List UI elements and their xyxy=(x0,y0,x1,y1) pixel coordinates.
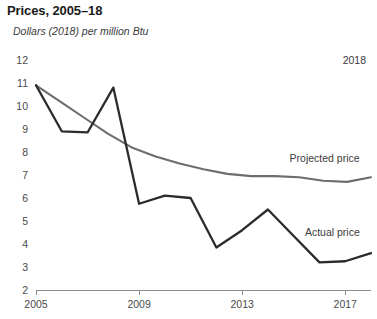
x-axis-tick-label: 2017 xyxy=(334,298,358,310)
x-axis-group: 2005200920132017 xyxy=(24,290,371,310)
y-axis-tick-label: 10 xyxy=(16,100,28,112)
y-axis-tick-label: 4 xyxy=(22,238,28,250)
series-line-projected-price xyxy=(36,85,371,182)
corner-year-label: 2018 xyxy=(343,54,367,66)
y-axis-tick-label: 6 xyxy=(22,192,28,204)
y-axis-tick-label: 2 xyxy=(22,284,28,296)
x-axis-tick-label: 2009 xyxy=(127,298,151,310)
y-axis-tick-label: 9 xyxy=(22,123,28,135)
y-axis-tick-label: 3 xyxy=(22,261,28,273)
y-axis-tick-label: 5 xyxy=(22,215,28,227)
price-chart: Prices, 2005–18 Dollars (2018) per milli… xyxy=(0,0,377,319)
annotation-group: Projected priceActual price2018 xyxy=(290,54,367,238)
series-annotation-projected-price: Projected price xyxy=(290,152,360,164)
series-annotation-actual-price: Actual price xyxy=(305,226,360,238)
x-axis-tick-label: 2013 xyxy=(230,298,254,310)
chart-plot-area: 12111098765432 2005200920132017 Projecte… xyxy=(0,0,377,319)
y-axis-tick-label: 8 xyxy=(22,146,28,158)
y-axis-tick-label: 7 xyxy=(22,169,28,181)
y-axis-tick-label: 11 xyxy=(17,77,28,89)
x-axis-tick-label: 2005 xyxy=(24,298,48,310)
y-axis-tick-labels: 12111098765432 xyxy=(16,54,28,296)
y-axis-tick-label: 12 xyxy=(16,54,28,66)
